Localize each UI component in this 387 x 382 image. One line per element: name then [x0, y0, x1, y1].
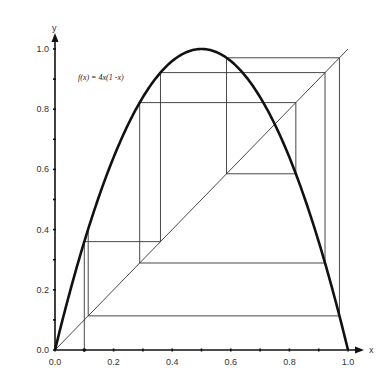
x-tick-label: 0.2: [107, 357, 120, 367]
y-tick-label: 0.6: [36, 164, 49, 174]
x-tick-label: 0.4: [166, 357, 179, 367]
x-tick-label: 1.0: [342, 357, 355, 367]
x-axis-ticks: 0.00.20.40.60.81.0: [49, 349, 355, 368]
x-tick-label: 0.0: [49, 357, 62, 367]
formula-annotation: f(x) = 4x(1 -x): [78, 73, 124, 82]
y-tick-label: 0.2: [36, 285, 49, 295]
x-tick-label: 0.6: [225, 357, 238, 367]
y-tick-label: 0.8: [36, 104, 49, 114]
y-axis: 0.00.20.40.60.81.0 y: [36, 23, 58, 355]
y-axis-ticks: 0.00.20.40.60.81.0: [36, 44, 56, 355]
x-axis-label: x: [369, 345, 374, 355]
logistic-map-cobweb-chart: 0.00.20.40.60.81.0 x 0.00.20.40.60.81.0 …: [0, 0, 387, 382]
y-tick-label: 0.0: [36, 345, 49, 355]
cobweb-polyline: [84, 58, 339, 350]
cobweb-path: [83, 58, 340, 352]
x-axis-arrow-icon: [355, 347, 364, 354]
y-axis-label: y: [52, 23, 57, 33]
x-axis: 0.00.20.40.60.81.0 x: [49, 345, 374, 367]
y-tick-label: 1.0: [36, 44, 49, 54]
y-axis-arrow-icon: [52, 33, 59, 42]
y-tick-label: 0.4: [36, 225, 49, 235]
x-tick-label: 0.8: [283, 357, 296, 367]
